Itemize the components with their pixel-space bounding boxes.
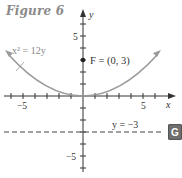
x-tick-neg5: −5 bbox=[17, 101, 27, 111]
x-tick-pos5: 5 bbox=[141, 101, 146, 111]
glossary-badge[interactable]: G bbox=[168, 124, 182, 140]
curve-equation-label: x² = 12y bbox=[12, 45, 46, 56]
directrix-label: y = −3 bbox=[112, 119, 138, 130]
y-axis-label: y bbox=[88, 9, 94, 20]
curve-arrow-right bbox=[153, 50, 161, 57]
x-axis-label: x bbox=[165, 99, 171, 110]
parabola-plot: y x F = (0, 3) y = −3 x² = 12y −5 5 5 −5 bbox=[0, 0, 182, 178]
y-tick-pos5: 5 bbox=[73, 32, 78, 42]
focus-point bbox=[81, 58, 86, 63]
y-tick-neg5: −5 bbox=[66, 152, 76, 162]
y-axis bbox=[80, 9, 86, 172]
focus-label: F = (0, 3) bbox=[90, 55, 130, 67]
